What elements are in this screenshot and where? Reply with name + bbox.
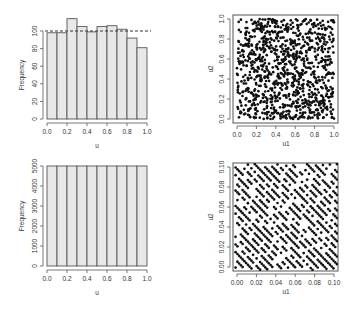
tick-label: 0 bbox=[31, 117, 38, 121]
scatter-point bbox=[248, 74, 251, 77]
scatter-point bbox=[295, 44, 298, 47]
scatter-point bbox=[336, 194, 339, 197]
tick-label: 0.6 bbox=[102, 275, 111, 282]
tick-label: 1000 bbox=[31, 238, 38, 253]
scatter-point bbox=[329, 38, 332, 41]
scatter-point bbox=[255, 96, 258, 99]
scatter-point bbox=[291, 116, 294, 119]
tick-label: 0.0 bbox=[232, 131, 241, 138]
scatter-point bbox=[278, 92, 281, 95]
scatter-point bbox=[265, 65, 268, 68]
scatter-bottom-right: 0.000.020.040.060.080.10 0.000.020.040.0… bbox=[207, 160, 341, 295]
scatter-point bbox=[324, 59, 327, 62]
scatter-point bbox=[297, 38, 300, 41]
scatter-point bbox=[300, 23, 303, 26]
figure: 0.00.20.40.60.81.0 020406080100 u Freque… bbox=[0, 0, 358, 310]
scatter-point bbox=[278, 173, 281, 176]
scatter-point bbox=[234, 174, 237, 177]
scatter-point bbox=[336, 240, 339, 243]
scatter-point bbox=[314, 55, 317, 58]
scatter-point bbox=[317, 27, 320, 30]
scatter-point bbox=[284, 104, 287, 107]
scatter-point bbox=[247, 109, 250, 112]
scatter-point bbox=[289, 19, 292, 22]
scatter-point bbox=[244, 104, 247, 107]
scatter-point bbox=[297, 71, 300, 74]
scatter-point bbox=[242, 82, 245, 85]
scatter-point bbox=[253, 78, 256, 81]
tick-label: 1.0 bbox=[218, 14, 225, 23]
scatter-point bbox=[270, 44, 273, 47]
scatter-point bbox=[314, 50, 317, 53]
scatter-point bbox=[280, 58, 283, 61]
scatter-point bbox=[283, 201, 286, 204]
scatter-point bbox=[240, 18, 243, 21]
scatter-point bbox=[327, 79, 330, 82]
scatter-point bbox=[297, 246, 300, 249]
scatter-point bbox=[317, 112, 320, 115]
scatter-point bbox=[311, 215, 314, 218]
y-axis-label: u2 bbox=[207, 213, 214, 221]
scatter-point bbox=[302, 252, 305, 255]
scatter-point bbox=[267, 69, 270, 72]
scatter-point bbox=[325, 95, 328, 98]
scatter-point bbox=[254, 88, 257, 91]
scatter-point bbox=[292, 94, 295, 97]
scatter-point bbox=[303, 19, 306, 22]
scatter-point bbox=[269, 25, 272, 28]
scatter-point bbox=[277, 73, 280, 76]
scatter-point bbox=[279, 117, 282, 120]
scatter-point bbox=[316, 88, 319, 91]
scatter-point bbox=[325, 87, 328, 90]
scatter-point bbox=[302, 57, 305, 60]
scatter-point bbox=[271, 97, 274, 100]
scatter-point bbox=[322, 24, 325, 27]
histogram-bar bbox=[77, 166, 87, 266]
scatter-point bbox=[297, 83, 300, 86]
scatter-point bbox=[258, 53, 261, 56]
scatter-point bbox=[283, 69, 286, 72]
scatter-point bbox=[248, 196, 251, 199]
scatter-points bbox=[236, 18, 336, 121]
scatter-point bbox=[242, 53, 245, 56]
scatter-point bbox=[324, 84, 327, 87]
x-axis-label: u bbox=[95, 142, 99, 149]
scatter-point bbox=[296, 24, 299, 27]
scatter-point bbox=[241, 220, 244, 223]
scatter-point bbox=[266, 113, 269, 116]
scatter-point bbox=[276, 58, 279, 61]
scatter-point bbox=[278, 180, 281, 183]
scatter-point bbox=[333, 21, 336, 24]
scatter-point bbox=[256, 103, 259, 106]
scatter-point bbox=[274, 100, 277, 103]
scatter-point bbox=[302, 79, 305, 82]
x-axis: 0.000.020.040.060.080.10 bbox=[231, 274, 341, 286]
scatter-point bbox=[327, 59, 330, 62]
scatter-point bbox=[263, 76, 266, 79]
scatter-point bbox=[336, 255, 339, 258]
scatter-point bbox=[287, 212, 290, 215]
scatter-point bbox=[325, 167, 328, 170]
scatter-point bbox=[320, 247, 323, 250]
scatter-point bbox=[255, 195, 258, 198]
histogram-bar bbox=[67, 166, 77, 266]
scatter-point bbox=[250, 77, 253, 80]
scatter-point bbox=[310, 91, 313, 94]
histogram-bar bbox=[107, 166, 117, 266]
scatter-point bbox=[315, 241, 318, 244]
scatter-point bbox=[281, 43, 284, 46]
scatter-point bbox=[312, 100, 315, 103]
tick-label: 0.2 bbox=[62, 128, 71, 135]
scatter-point bbox=[280, 112, 283, 115]
scatter-point bbox=[294, 67, 297, 70]
x-axis-label: u bbox=[95, 289, 99, 296]
scatter-point bbox=[308, 89, 311, 92]
scatter-point bbox=[325, 27, 328, 30]
scatter-point bbox=[239, 101, 242, 104]
tick-label: 0.04 bbox=[218, 220, 225, 233]
scatter-point bbox=[255, 113, 258, 116]
scatter-point bbox=[308, 172, 311, 175]
scatter-point bbox=[258, 116, 261, 119]
tick-label: 0.2 bbox=[218, 94, 225, 103]
scatter-point bbox=[240, 80, 243, 83]
